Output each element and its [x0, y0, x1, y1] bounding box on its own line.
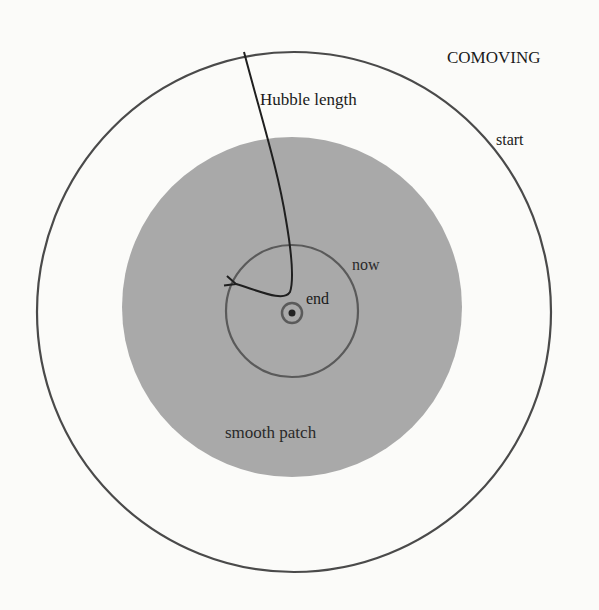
comoving-title: COMOVING — [447, 49, 541, 66]
smooth-patch-label: smooth patch — [225, 424, 316, 441]
now-label: now — [352, 257, 380, 273]
end-label: end — [306, 291, 329, 307]
start-label: start — [496, 132, 524, 148]
hubble-length-label: Hubble length — [260, 91, 357, 108]
end-dot — [289, 310, 296, 317]
